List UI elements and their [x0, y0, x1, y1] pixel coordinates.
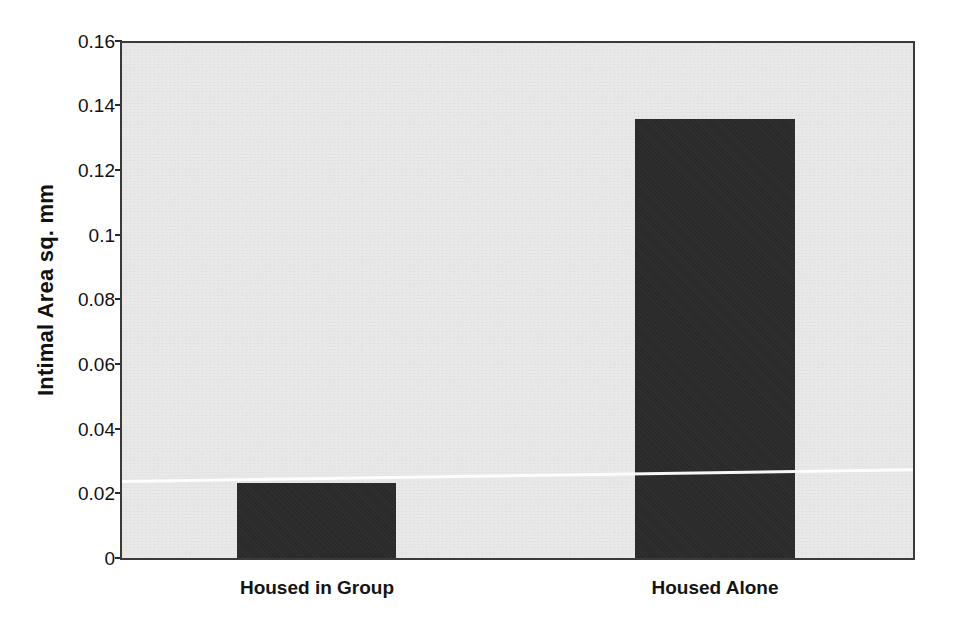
scan-line-artifact [122, 468, 915, 483]
y-axis-tick-label: 0.04 [78, 420, 122, 439]
x-axis-label-housed-alone: Housed Alone [595, 577, 835, 599]
y-axis-tick-label: 0.08 [78, 290, 122, 309]
y-axis-tick-label: 0.06 [78, 355, 122, 374]
y-axis-tick-label: 0.02 [78, 484, 122, 503]
y-axis-tick-label: 0.12 [78, 161, 122, 180]
y-axis-tick-label: 0.14 [78, 96, 122, 115]
x-axis-line [122, 558, 915, 560]
y-axis-title: Intimal Area sq. mm [26, 10, 66, 570]
y-axis-tick-label: 0.1 [89, 226, 122, 245]
y-axis-line [120, 41, 122, 560]
bar-chart-figure: Intimal Area sq. mm 0.16 0.14 0.12 0.1 0… [0, 0, 954, 631]
bar-housed-alone[interactable] [635, 119, 795, 560]
bar-housed-in-group[interactable] [237, 483, 396, 560]
plot-area [122, 41, 915, 560]
y-axis-tick-label: 0.16 [78, 32, 122, 51]
x-axis-label-housed-in-group: Housed in Group [197, 577, 437, 599]
